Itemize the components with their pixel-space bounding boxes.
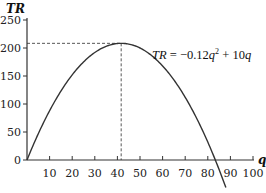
- max-point-guides: [27, 43, 121, 160]
- x-tick-label: 80: [201, 167, 215, 180]
- y-tick-label: 0: [14, 154, 21, 167]
- x-tick-label: 10: [43, 167, 57, 180]
- tr-curve: [27, 43, 226, 187]
- x-axis-title: q: [258, 153, 266, 167]
- x-tick-label: 70: [178, 167, 192, 180]
- x-tick-label: 40: [110, 167, 124, 180]
- total-revenue-chart: 050100150200250102030405060708090100 TR …: [0, 0, 266, 193]
- y-tick-label: 150: [0, 70, 21, 83]
- axes: 050100150200250102030405060708090100: [0, 14, 264, 180]
- eq-tr: TR: [152, 48, 167, 62]
- eq-plus: + 10: [219, 48, 245, 62]
- x-tick-label: 90: [223, 167, 237, 180]
- x-tick-label: 100: [243, 167, 264, 180]
- x-tick-label: 60: [156, 167, 170, 180]
- equation-label: TR = −0.12q2 + 10q: [152, 47, 251, 62]
- y-tick-label: 100: [0, 98, 21, 111]
- x-tick-label: 20: [65, 167, 79, 180]
- eq-mid: = −0.12: [167, 48, 209, 62]
- x-tick-label: 50: [133, 167, 147, 180]
- x-tick-label: 30: [88, 167, 102, 180]
- y-tick-label: 50: [7, 126, 21, 139]
- y-axis-title: TR: [6, 2, 25, 16]
- eq-q2: q: [245, 48, 251, 62]
- tr-curve-path: [27, 43, 226, 187]
- y-tick-label: 200: [0, 42, 21, 55]
